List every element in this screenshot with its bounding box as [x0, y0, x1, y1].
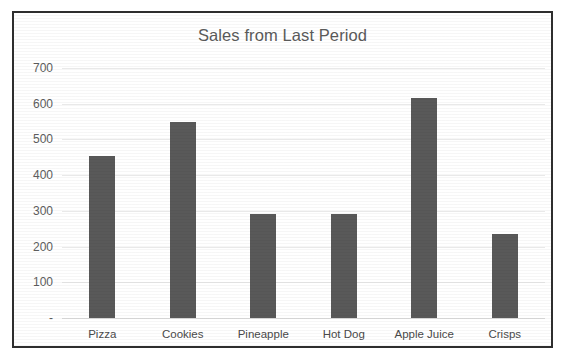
x-tick-label-hot-dog: Hot Dog	[323, 328, 365, 340]
bar-group: Hot Dog	[304, 68, 385, 318]
bar-cookies[interactable]	[170, 122, 196, 318]
chart-frame: Sales from Last Period -1002003004005006…	[12, 11, 553, 348]
x-tick-label-pizza: Pizza	[88, 328, 116, 340]
chart-title: Sales from Last Period	[14, 26, 551, 45]
bar-hot-dog[interactable]	[331, 214, 357, 318]
bar-group: Cookies	[143, 68, 224, 318]
bar-group: Apple Juice	[384, 68, 465, 318]
x-tick-label-crisps: Crisps	[488, 328, 521, 340]
y-tick-label-300: 300	[33, 204, 53, 218]
y-tick-label-100: 100	[33, 275, 53, 289]
x-tick-label-pineapple: Pineapple	[238, 328, 289, 340]
x-tick-label-apple-juice: Apple Juice	[395, 328, 454, 340]
y-tick-label-700: 700	[33, 61, 53, 75]
bar-pizza[interactable]	[89, 156, 115, 319]
y-tick-label-200: 200	[33, 240, 53, 254]
x-tick-label-cookies: Cookies	[162, 328, 204, 340]
bars-group: PizzaCookiesPineappleHot DogApple JuiceC…	[62, 68, 545, 318]
bar-group: Pizza	[62, 68, 143, 318]
plot-area: -100200300400500600700 PizzaCookiesPinea…	[62, 68, 545, 318]
bar-crisps[interactable]	[492, 234, 518, 318]
gridline--	[62, 318, 545, 319]
y-tick-label-500: 500	[33, 132, 53, 146]
bar-group: Crisps	[465, 68, 546, 318]
bar-apple-juice[interactable]	[411, 98, 437, 318]
bar-group: Pineapple	[223, 68, 304, 318]
y-tick-label--: -	[49, 311, 53, 325]
y-tick-label-400: 400	[33, 168, 53, 182]
bar-pineapple[interactable]	[250, 214, 276, 318]
y-tick-label-600: 600	[33, 97, 53, 111]
